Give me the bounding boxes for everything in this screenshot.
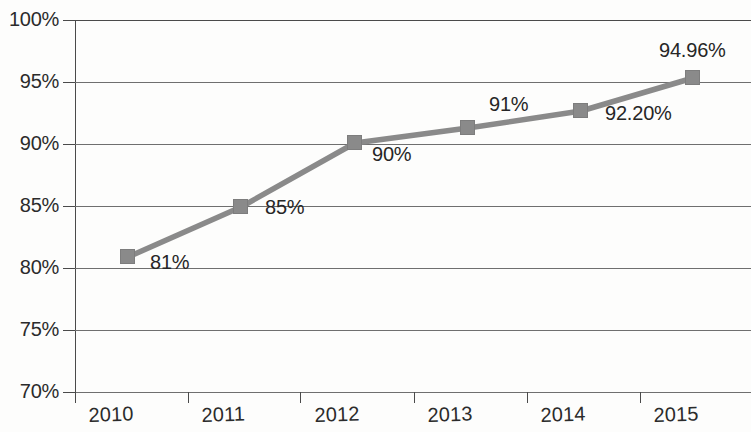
data-point-label: 94.96% xyxy=(659,39,726,62)
y-axis-tick xyxy=(63,82,75,83)
y-axis-tick-label: 80% xyxy=(1,256,59,279)
y-axis-tick xyxy=(63,268,75,269)
y-axis-tick xyxy=(63,392,75,393)
y-axis-tick xyxy=(63,20,75,21)
data-point-marker xyxy=(233,199,248,214)
data-point-marker xyxy=(573,103,588,118)
data-point-label: 81% xyxy=(150,251,189,274)
x-axis-tick-label: 2011 xyxy=(201,402,246,427)
y-axis-tick-label: 100% xyxy=(1,8,59,31)
y-axis-tick-label: 90% xyxy=(1,132,59,155)
data-point-marker xyxy=(460,120,475,135)
data-point-marker xyxy=(120,249,135,264)
data-point-marker xyxy=(685,70,700,85)
gridline xyxy=(75,330,751,331)
gridline xyxy=(75,20,751,21)
y-axis-tick-label: 75% xyxy=(1,318,59,341)
x-axis-tick-label: 2010 xyxy=(88,402,134,427)
data-point-marker xyxy=(347,135,362,150)
x-axis-tick xyxy=(414,392,415,403)
data-point-label: 92.20% xyxy=(605,102,672,125)
y-axis-tick xyxy=(63,330,75,331)
y-axis-tick xyxy=(63,144,75,145)
data-point-label: 90% xyxy=(372,143,411,166)
y-axis-tick-label: 70% xyxy=(1,380,59,403)
x-axis-tick xyxy=(300,392,301,403)
x-axis-tick-label: 2013 xyxy=(427,402,473,427)
x-axis-tick xyxy=(188,392,189,403)
x-axis-tick xyxy=(527,392,528,403)
gridline xyxy=(75,82,751,83)
gridline xyxy=(75,144,751,145)
gridline xyxy=(75,206,751,207)
y-axis-tick-label: 95% xyxy=(1,70,59,93)
y-axis-tick xyxy=(63,206,75,207)
x-axis-tick xyxy=(75,392,76,403)
gridline xyxy=(75,392,751,393)
x-axis-tick-label: 2014 xyxy=(540,402,586,427)
chart-container: 100% 95% 90% 85% 80% 75% 70% 81 xyxy=(0,0,751,432)
y-axis-labels: 100% 95% 90% 85% 80% 75% 70% xyxy=(0,0,59,432)
data-point-label: 91% xyxy=(489,93,528,116)
plot-area xyxy=(75,20,751,392)
data-point-label: 85% xyxy=(265,196,304,219)
x-axis-tick xyxy=(640,392,641,403)
x-axis-tick-label: 2015 xyxy=(653,402,699,427)
y-axis-tick-label: 85% xyxy=(1,194,59,217)
x-axis-tick-label: 2012 xyxy=(314,402,360,427)
